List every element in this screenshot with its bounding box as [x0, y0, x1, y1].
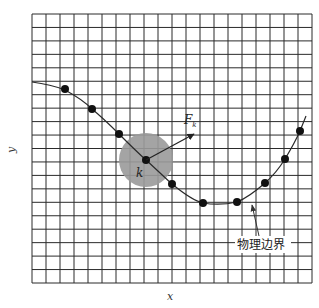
boundary-point: [168, 180, 176, 188]
point-k-label: k: [136, 166, 143, 180]
boundary-point: [233, 198, 241, 206]
boundary-point: [296, 127, 304, 135]
x-axis-label: x: [167, 290, 174, 303]
boundary-point: [261, 179, 269, 187]
boundary-label: 物理边界: [237, 238, 285, 252]
boundary-point: [115, 130, 123, 138]
boundary-grid-diagram: Fk k 物理边界 x y: [0, 0, 319, 308]
boundary-point: [199, 199, 207, 207]
boundary-point: [88, 105, 96, 113]
y-axis-label: y: [5, 146, 18, 154]
force-label-sub: k: [192, 121, 196, 129]
boundary-point: [61, 85, 69, 93]
boundary-point: [281, 155, 289, 163]
